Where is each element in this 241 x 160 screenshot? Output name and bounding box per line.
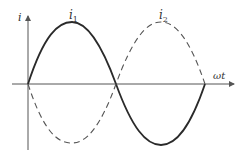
- x-axis-label: ωt: [213, 70, 226, 81]
- curve-i2-label: i2: [159, 8, 168, 24]
- y-axis-label: i: [18, 11, 22, 24]
- curve-i1-label: i1: [69, 8, 78, 24]
- waveform-diagram: i i1 i2 ωt: [0, 0, 241, 160]
- curve-i2: [28, 22, 205, 143]
